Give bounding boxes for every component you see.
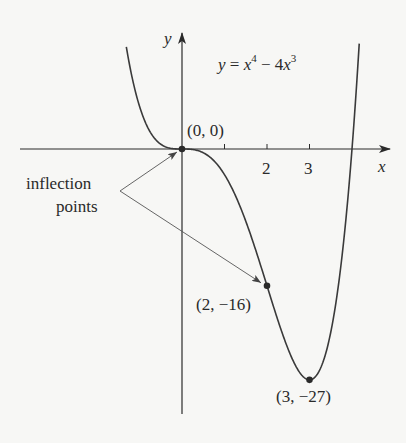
point-label-inflection-2: (2, −16) — [196, 296, 251, 313]
annotation-text-line2: points — [56, 198, 98, 215]
data-point — [179, 146, 186, 153]
data-point — [264, 283, 271, 290]
annotation-text-line1: inflection — [26, 175, 91, 192]
tick-label-3: 3 — [304, 160, 313, 177]
equation-label: y = x4 − 4x3 — [218, 56, 296, 73]
marked-points — [179, 146, 313, 383]
data-point — [306, 377, 313, 384]
x-ticks — [225, 144, 310, 149]
annotation-arrows — [120, 152, 261, 283]
y-axis-label: y — [164, 30, 172, 47]
annotation-arrow — [120, 152, 177, 191]
tick-label-2: 2 — [262, 160, 271, 177]
point-label-origin: (0, 0) — [187, 122, 224, 139]
point-label-minimum: (3, −27) — [276, 388, 331, 405]
chart: y x y = x4 − 4x3 2 3 (0, 0) (2, −16) (3,… — [0, 0, 406, 443]
x-axis-label: x — [378, 158, 386, 175]
function-curve — [126, 44, 359, 380]
plot-area — [0, 0, 406, 443]
